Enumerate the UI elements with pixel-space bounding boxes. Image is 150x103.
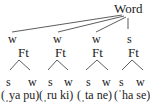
foot-weight-3: w xyxy=(92,33,101,45)
syllables-2: (ˌru ki) xyxy=(39,89,73,101)
foot-node-2: Ft xyxy=(55,46,66,59)
syllables-3: (ˌta ne) xyxy=(77,89,112,101)
syllable-strength-2b: w xyxy=(64,76,73,88)
syllable-strength-4a: s xyxy=(119,76,124,88)
foot-weight-1: w xyxy=(8,33,17,45)
syllable-strength-3b: w xyxy=(102,76,111,88)
foot-weight-4: s xyxy=(127,33,132,45)
syllables-1: (ˌya pu) xyxy=(1,89,39,101)
foot-node-4: Ft xyxy=(128,46,139,59)
foot-node-1: Ft xyxy=(18,46,29,59)
word-node: Word xyxy=(114,2,143,15)
syllable-strength-3a: s xyxy=(86,76,91,88)
syllable-strength-2a: s xyxy=(48,76,53,88)
syllable-strength-1b: w xyxy=(28,76,37,88)
foot-node-3: Ft xyxy=(92,46,103,59)
syllable-strength-1a: s xyxy=(6,76,11,88)
syllable-strength-4b: w xyxy=(136,76,145,88)
foot-weight-2: w xyxy=(53,33,62,45)
syllables-4: (ˈha se) xyxy=(114,89,150,101)
